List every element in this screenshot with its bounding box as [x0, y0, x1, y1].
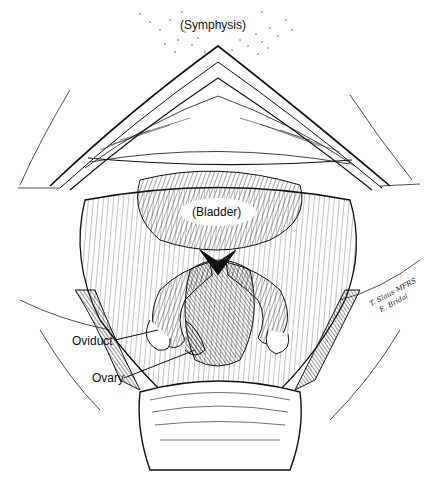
anatomy-drawing — [0, 0, 434, 488]
label-symphysis: (Symphysis) — [180, 18, 246, 32]
label-oviduct: Oviduct — [72, 334, 113, 348]
label-bladder: (Bladder) — [192, 205, 241, 219]
upper-flap — [50, 46, 390, 190]
label-ovary: Ovary — [92, 371, 124, 385]
illustration-canvas: (Symphysis) (Bladder) Oviduct Ovary T. S… — [0, 0, 434, 488]
lower-retractor — [139, 381, 301, 470]
